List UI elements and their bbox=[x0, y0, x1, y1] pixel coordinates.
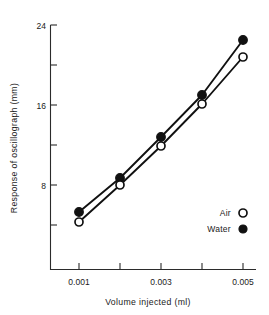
legend-marker-filled-circle-icon bbox=[239, 225, 247, 233]
legend-marker-open-circle-icon bbox=[239, 209, 247, 217]
datapoint-air-0.005 bbox=[239, 53, 247, 61]
datapoint-air-0.001 bbox=[75, 218, 83, 226]
datapoint-air-0.004 bbox=[198, 100, 206, 108]
datapoint-water-0.003 bbox=[157, 133, 166, 142]
y-tick-label-8: 8 bbox=[41, 181, 46, 191]
datapoint-water-0.001 bbox=[75, 208, 84, 217]
datapoint-air-0.002 bbox=[116, 181, 124, 189]
series-water bbox=[75, 36, 248, 217]
chart-legend: Air Water bbox=[207, 208, 247, 234]
datapoint-water-0.005 bbox=[239, 36, 248, 45]
x-tick-label-0.001: 0.001 bbox=[68, 277, 90, 287]
datapoint-air-0.003 bbox=[157, 142, 165, 150]
x-tick-label-0.003: 0.003 bbox=[150, 277, 172, 287]
x-axis-title: Volume injected (ml) bbox=[105, 297, 191, 307]
legend-label-air: Air bbox=[220, 208, 231, 218]
x-tick-label-0.005: 0.005 bbox=[232, 277, 254, 287]
chart-canvas: 24 16 8 Response of oscillograph (mm) 0.… bbox=[0, 0, 269, 315]
y-tick-label-24: 24 bbox=[37, 21, 47, 31]
legend-item-air: Air bbox=[220, 208, 247, 218]
series-water-markers bbox=[75, 36, 248, 217]
legend-label-water: Water bbox=[207, 224, 231, 234]
legend-item-water: Water bbox=[207, 224, 247, 234]
x-axis: 0.001 0.003 0.005 Volume injected (ml) bbox=[51, 263, 257, 307]
datapoint-water-0.004 bbox=[198, 91, 207, 100]
y-axis-title: Response of oscillograph (mm) bbox=[9, 83, 19, 213]
y-tick-label-16: 16 bbox=[37, 101, 47, 111]
series-water-line bbox=[79, 40, 243, 212]
chart-figure: 24 16 8 Response of oscillograph (mm) 0.… bbox=[0, 0, 269, 315]
y-axis: 24 16 8 Response of oscillograph (mm) bbox=[9, 21, 57, 271]
